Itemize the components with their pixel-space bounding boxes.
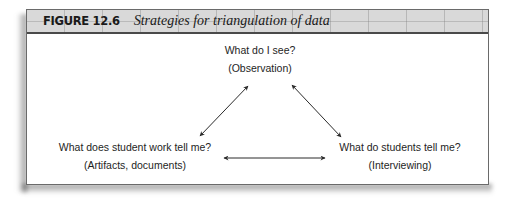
node-artifacts-question: What does student work tell me? [25, 138, 245, 156]
node-observation: What do I see? (Observation) [195, 41, 325, 77]
node-interviewing-method: (Interviewing) [305, 156, 495, 174]
node-artifacts: What does student work tell me? (Artifac… [25, 138, 245, 174]
arrow-top-right [292, 85, 341, 137]
node-interviewing: What do students tell me? (Interviewing) [305, 138, 495, 174]
node-observation-method: (Observation) [195, 59, 325, 77]
node-interviewing-question: What do students tell me? [305, 138, 495, 156]
arrow-top-left [200, 86, 248, 136]
node-artifacts-method: (Artifacts, documents) [25, 156, 245, 174]
node-observation-question: What do I see? [195, 41, 325, 59]
